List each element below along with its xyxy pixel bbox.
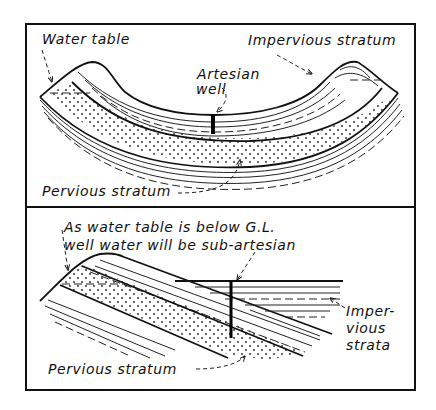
label-pervious-stratum-bottom: Pervious stratum	[48, 361, 177, 377]
pervious-leader-bottom	[196, 356, 245, 369]
label-vious: vious	[346, 320, 386, 336]
label-water-table: Water table	[42, 31, 130, 47]
label-strata: strata	[346, 337, 391, 353]
label-imper: Imper-	[346, 303, 395, 319]
impervious-leader	[277, 55, 312, 74]
note-leader-well	[237, 252, 255, 280]
panel-bottom-sloping-strata: As water table is below G.L. well water …	[40, 219, 395, 377]
label-note-line2: well water will be sub-artesian	[64, 237, 296, 253]
label-impervious-stratum: Impervious stratum	[248, 32, 396, 48]
label-artesian: Artesian	[196, 66, 260, 82]
label-well: well	[196, 81, 226, 97]
label-pervious-stratum-top: Pervious stratum	[42, 183, 171, 199]
artesian-well-diagram: Water table Impervious stratum Artesian …	[0, 0, 436, 410]
water-table-leader	[42, 50, 52, 82]
label-note-line1: As water table is below G.L.	[63, 219, 275, 235]
panel-top-synclinal-basin: Water table Impervious stratum Artesian …	[40, 31, 404, 199]
